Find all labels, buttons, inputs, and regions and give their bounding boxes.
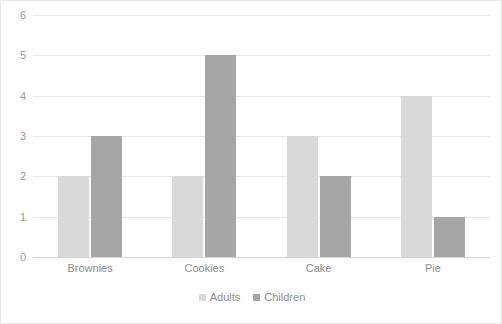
- y-axis-tick-label: 0: [20, 252, 26, 263]
- x-axis-tick-label: Brownies: [68, 263, 113, 274]
- y-axis-tick-label: 5: [20, 50, 26, 61]
- x-axis-tick-label: Cookies: [185, 263, 225, 274]
- bar-children-cake[interactable]: [320, 176, 351, 257]
- y-axis-tick-label: 4: [20, 90, 26, 101]
- x-axis-tick-label: Cake: [306, 263, 332, 274]
- bar-adults-pie[interactable]: [401, 96, 432, 257]
- bar-adults-cake[interactable]: [287, 136, 318, 257]
- bar-children-cookies[interactable]: [205, 55, 236, 257]
- bar-group: [287, 15, 351, 257]
- legend-item-children[interactable]: Children: [253, 292, 305, 303]
- legend-label: Children: [264, 292, 305, 303]
- plot-area: 0123456: [33, 15, 490, 257]
- bar-adults-brownies[interactable]: [58, 176, 89, 257]
- bar-children-brownies[interactable]: [91, 136, 122, 257]
- legend-item-adults[interactable]: Adults: [199, 292, 241, 303]
- bar-children-pie[interactable]: [434, 217, 465, 257]
- bar-chart: 0123456 BrowniesCookiesCakePie AdultsChi…: [0, 0, 502, 324]
- y-axis-tick-label: 6: [20, 10, 26, 21]
- bar-group: [172, 15, 236, 257]
- bar-adults-cookies[interactable]: [172, 176, 203, 257]
- bar-group: [58, 15, 122, 257]
- y-axis-tick-label: 2: [20, 171, 26, 182]
- bar-group: [401, 15, 465, 257]
- x-axis-tick-label: Pie: [425, 263, 441, 274]
- gridline: [33, 257, 490, 258]
- y-axis-tick-label: 3: [20, 131, 26, 142]
- y-axis-tick-label: 1: [20, 211, 26, 222]
- legend-swatch-icon: [253, 294, 260, 301]
- chart-legend: AdultsChildren: [1, 292, 502, 303]
- x-axis-tick-labels: BrowniesCookiesCakePie: [33, 263, 490, 283]
- bars-layer: [33, 15, 490, 257]
- legend-swatch-icon: [199, 294, 206, 301]
- legend-label: Adults: [210, 292, 241, 303]
